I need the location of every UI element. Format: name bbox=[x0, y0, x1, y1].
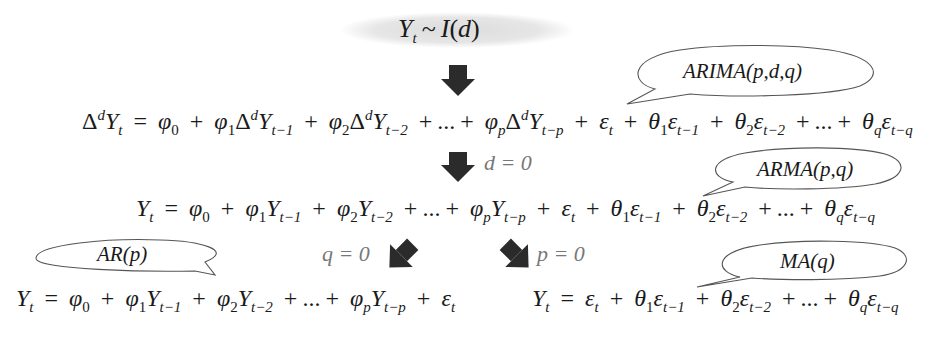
condition-d-zero: d = 0 bbox=[484, 150, 532, 176]
arima-label: ARIMA(p,d,q) bbox=[683, 59, 802, 84]
arrow-down-left-icon bbox=[378, 233, 424, 279]
arrow-down-right-icon bbox=[494, 233, 540, 279]
arma-label: ARMA(p,q) bbox=[757, 157, 853, 182]
condition-q-zero: q = 0 bbox=[322, 241, 370, 267]
arrow-down-icon bbox=[441, 65, 475, 96]
ma-equation: Yt = εt + θ1εt−1 + θ2εt−2 +...+ θqεt−q bbox=[532, 286, 899, 315]
arima-equation: ΔdYt = φ0 + φ1ΔdYt−1 + φ2ΔdYt−2 +...+ φp… bbox=[82, 108, 913, 138]
arma-equation: Yt = φ0 + φ1Yt−1 + φ2Yt−2 +...+ φpYt−p +… bbox=[136, 196, 875, 225]
integrated-series-label: Yt~I(d) bbox=[398, 16, 480, 46]
condition-p-zero: p = 0 bbox=[537, 241, 585, 267]
arrow-down-icon bbox=[441, 152, 475, 182]
ar-label: AR(p) bbox=[97, 242, 147, 267]
ma-label: MA(q) bbox=[780, 249, 835, 274]
ar-equation: Yt = φ0 + φ1Yt−1 + φ2Yt−2 +...+ φpYt−p +… bbox=[16, 286, 455, 315]
